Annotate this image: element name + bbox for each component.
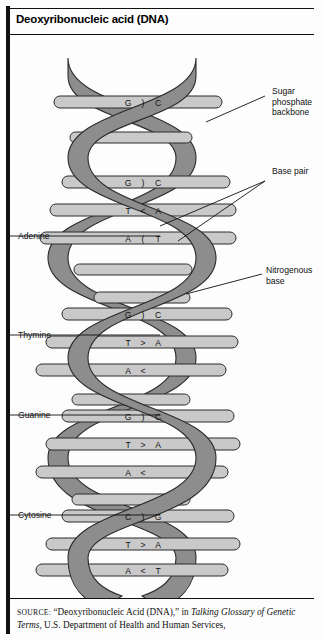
bp-letter: G xyxy=(125,310,132,320)
bp-letter: A xyxy=(125,234,131,244)
bp-bond: < xyxy=(140,566,145,576)
bp-bond: ) xyxy=(142,178,145,188)
bp-bond: > xyxy=(140,540,145,550)
source-lead: SOURCE: xyxy=(17,608,51,617)
label-guanine: Guanine xyxy=(18,410,51,421)
bp-letter: A xyxy=(125,468,131,478)
bp-bond: ( xyxy=(142,234,145,244)
page-title: Deoxyribonucleic acid (DNA) xyxy=(16,13,168,25)
dna-double-helix-diagram: G)C G)C T<A A(T G)C T>A A< G)C T>A A< C)… xyxy=(10,36,314,598)
title-underline xyxy=(10,34,314,35)
label-base-pair: Base pair xyxy=(272,166,308,177)
bp-bond: > xyxy=(140,338,145,348)
bp-bond: < xyxy=(140,468,145,478)
bp-letter: T xyxy=(155,234,161,244)
bp-letter: C xyxy=(155,98,161,108)
bp-letter: C xyxy=(155,412,161,422)
source-divider xyxy=(10,598,314,599)
bp-bond: ) xyxy=(142,412,145,422)
bp-letter: T xyxy=(125,206,131,216)
bp-letter: A xyxy=(155,338,161,348)
bp-letter: G xyxy=(125,178,132,188)
label-nitrogenous-base: Nitrogenous base xyxy=(266,265,312,286)
bp-letter: G xyxy=(155,512,162,522)
bp-letter: A xyxy=(155,440,161,450)
bp-letter: T xyxy=(125,440,131,450)
source-part1: “Deoxyribonucleic Acid (DNA),” in xyxy=(51,607,191,617)
bp-bond: ) xyxy=(142,98,145,108)
label-sugar-phosphate-backbone: Sugar phosphate backbone xyxy=(272,86,312,118)
bp-letter: G xyxy=(125,98,132,108)
bp-letter: G xyxy=(125,412,132,422)
bp-bond: > xyxy=(140,440,145,450)
bp-letter: A xyxy=(155,540,161,550)
label-adenine: Adenine xyxy=(18,231,50,242)
bp-bond: < xyxy=(140,206,145,216)
bp-letter: A xyxy=(155,206,161,216)
bp-letter: T xyxy=(125,540,131,550)
bp-bond: < xyxy=(140,366,145,376)
bp-letter: T xyxy=(125,338,131,348)
bp-letter: C xyxy=(155,178,161,188)
bp-letter: C xyxy=(155,310,161,320)
label-thymine: Thymine xyxy=(18,330,51,341)
bp-letter: A xyxy=(125,366,131,376)
bp-letter: T xyxy=(155,566,161,576)
bp-letter: C xyxy=(125,512,131,522)
rung xyxy=(36,564,228,576)
bp-bond: ) xyxy=(142,310,145,320)
dna-helix-svg: G)C G)C T<A A(T G)C T>A A< G)C T>A A< C)… xyxy=(10,36,314,598)
rung xyxy=(74,264,192,275)
source-caption: SOURCE: “Deoxyribonucleic Acid (DNA),” i… xyxy=(17,606,307,632)
figure-page: Deoxyribonucleic acid (DNA) xyxy=(0,0,322,640)
bp-bond: ) xyxy=(142,512,145,522)
bp-letter: A xyxy=(125,566,131,576)
label-cytosine: Cytosine xyxy=(18,510,51,521)
base-pair-rungs xyxy=(36,96,240,576)
rung xyxy=(36,364,226,376)
page-top-rule xyxy=(8,8,314,9)
source-part2: , U.S. Department of Health and Human Se… xyxy=(39,620,225,630)
